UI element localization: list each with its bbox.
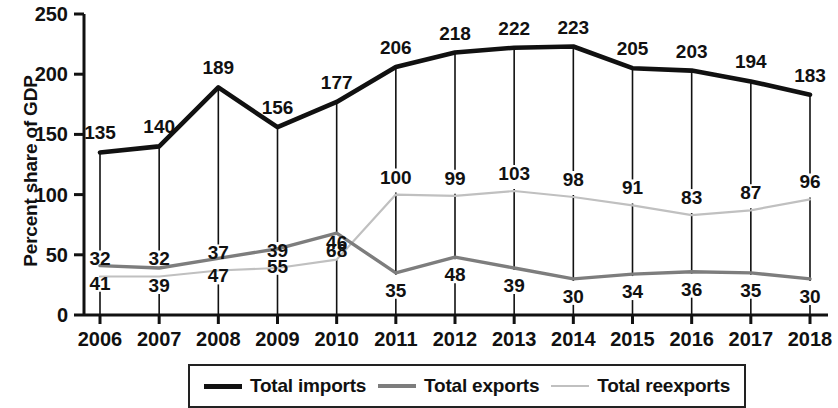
x-ticks: 2006200720082009201020112012201320142015… bbox=[78, 315, 833, 350]
data-label-total-reexports: 32 bbox=[149, 248, 170, 269]
y-tick-label: 50 bbox=[46, 244, 68, 266]
data-label-total-exports: 68 bbox=[326, 240, 347, 261]
x-tick-label: 2010 bbox=[314, 328, 359, 350]
data-label-total-imports: 177 bbox=[321, 72, 353, 93]
data-label-total-reexports: 83 bbox=[681, 187, 702, 208]
data-label-total-reexports: 37 bbox=[208, 242, 229, 263]
data-label-total-reexports: 99 bbox=[444, 168, 465, 189]
data-label-total-exports: 30 bbox=[799, 286, 820, 307]
data-label-total-exports: 35 bbox=[385, 280, 407, 301]
data-label-total-reexports: 98 bbox=[563, 169, 584, 190]
y-tick-label: 150 bbox=[35, 123, 68, 145]
y-tick-label: 200 bbox=[35, 63, 68, 85]
data-label-total-imports: 194 bbox=[735, 51, 767, 72]
x-tick-label: 2014 bbox=[551, 328, 596, 350]
data-label-total-reexports: 100 bbox=[380, 167, 412, 188]
x-tick-label: 2009 bbox=[255, 328, 300, 350]
legend-item-total-exports[interactable]: Total exports bbox=[378, 375, 539, 397]
legend: Total imports Total exports Total reexpo… bbox=[188, 364, 746, 408]
data-label-total-imports: 223 bbox=[557, 17, 589, 38]
data-label-total-imports: 218 bbox=[439, 23, 471, 44]
x-tick-label: 2008 bbox=[196, 328, 241, 350]
data-label-total-imports: 203 bbox=[676, 41, 708, 62]
data-label-total-reexports: 32 bbox=[89, 248, 110, 269]
legend-label-total-imports: Total imports bbox=[250, 375, 366, 397]
legend-swatch-reexports-icon bbox=[551, 385, 589, 387]
data-label-total-exports: 34 bbox=[622, 281, 644, 302]
x-tick-label: 2006 bbox=[78, 328, 123, 350]
legend-item-total-imports[interactable]: Total imports bbox=[204, 375, 366, 397]
data-label-total-imports: 189 bbox=[202, 57, 234, 78]
data-label-total-exports: 39 bbox=[504, 275, 525, 296]
legend-label-total-exports: Total exports bbox=[424, 375, 539, 397]
data-label-total-imports: 183 bbox=[794, 65, 826, 86]
data-label-total-imports: 135 bbox=[84, 122, 116, 143]
data-label-total-reexports: 103 bbox=[498, 163, 530, 184]
data-label-total-exports: 35 bbox=[740, 280, 762, 301]
legend-item-total-reexports[interactable]: Total reexports bbox=[551, 375, 730, 397]
data-label-total-exports: 36 bbox=[681, 279, 702, 300]
data-label-total-exports: 55 bbox=[267, 256, 289, 277]
x-tick-label: 2017 bbox=[729, 328, 774, 350]
data-label-total-reexports: 87 bbox=[740, 182, 761, 203]
data-label-total-exports: 41 bbox=[89, 273, 111, 294]
legend-swatch-imports-icon bbox=[204, 384, 242, 389]
x-tick-label: 2015 bbox=[610, 328, 655, 350]
x-tick-label: 2018 bbox=[788, 328, 833, 350]
data-label-total-reexports: 96 bbox=[799, 171, 820, 192]
y-tick-label: 100 bbox=[35, 184, 68, 206]
x-tick-label: 2007 bbox=[137, 328, 182, 350]
x-tick-label: 2016 bbox=[669, 328, 714, 350]
data-label-total-exports: 39 bbox=[149, 275, 170, 296]
data-label-total-imports: 222 bbox=[498, 18, 530, 39]
legend-swatch-exports-icon bbox=[378, 384, 416, 388]
data-label-total-imports: 156 bbox=[262, 97, 294, 118]
legend-label-total-reexports: Total reexports bbox=[597, 375, 730, 397]
data-label-total-imports: 206 bbox=[380, 37, 412, 58]
y-tick-label: 0 bbox=[57, 304, 68, 326]
data-label-total-imports: 205 bbox=[617, 38, 649, 59]
data-label-total-exports: 30 bbox=[563, 286, 584, 307]
x-tick-label: 2012 bbox=[433, 328, 478, 350]
data-label-total-exports: 48 bbox=[444, 264, 465, 285]
y-ticks: 050100150200250 bbox=[35, 3, 84, 326]
data-label-total-imports: 140 bbox=[143, 116, 175, 137]
data-label-total-exports: 47 bbox=[208, 265, 229, 286]
x-tick-label: 2013 bbox=[492, 328, 537, 350]
x-tick-label: 2011 bbox=[374, 328, 417, 350]
y-tick-label: 250 bbox=[35, 3, 68, 25]
data-label-total-reexports: 91 bbox=[622, 177, 644, 198]
